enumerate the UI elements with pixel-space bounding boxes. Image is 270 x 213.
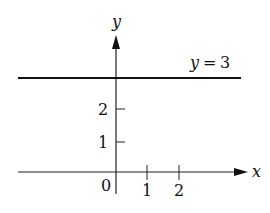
x-axis-label: x: [252, 162, 261, 181]
y-tick-label-2: 2: [98, 100, 108, 119]
origin-label: 0: [101, 176, 111, 195]
line-label-var: y: [189, 53, 200, 72]
y-axis-label: y: [111, 12, 122, 31]
x-axis-arrow-icon: [234, 168, 248, 176]
coordinate-plane: y x 0 1 2 1 2 y = 3: [0, 0, 270, 213]
line-label-eq: =: [203, 53, 216, 72]
x-tick-label-2: 2: [174, 181, 184, 200]
x-tick-label-1: 1: [142, 181, 152, 200]
y-axis-arrow-icon: [112, 35, 120, 49]
line-label-val: 3: [220, 53, 230, 72]
y-tick-label-1: 1: [98, 133, 108, 152]
